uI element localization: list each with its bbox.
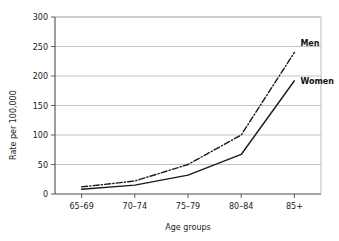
svg-text:100: 100 [33, 131, 48, 140]
series-label-women: Women [300, 77, 334, 86]
series-labels: MenWomen [300, 39, 334, 85]
grid-lines [55, 17, 321, 165]
x-axis-ticks [82, 194, 295, 198]
line-chart: 050100150200250300 65–6970–7475–7980–848… [0, 0, 339, 241]
svg-text:250: 250 [33, 43, 48, 52]
svg-text:150: 150 [33, 102, 48, 111]
svg-text:50: 50 [38, 161, 48, 170]
svg-text:85+: 85+ [286, 202, 303, 211]
data-series [82, 52, 295, 189]
svg-text:300: 300 [33, 13, 48, 22]
series-label-men: Men [300, 39, 319, 48]
series-line-men [82, 52, 295, 187]
y-axis-tick-labels: 050100150200250300 [33, 13, 48, 199]
x-axis-title: Age groups [165, 223, 210, 232]
svg-text:200: 200 [33, 72, 48, 81]
svg-text:0: 0 [43, 190, 48, 199]
svg-text:65–69: 65–69 [69, 202, 93, 211]
y-axis-ticks [51, 17, 55, 194]
y-axis-title: Rate per 100,000 [9, 90, 18, 160]
svg-text:75–79: 75–79 [176, 202, 200, 211]
x-axis-tick-labels: 65–6970–7475–7980–8485+ [69, 202, 302, 211]
svg-text:80–84: 80–84 [229, 202, 253, 211]
svg-text:70–74: 70–74 [123, 202, 147, 211]
chart-container: 050100150200250300 65–6970–7475–7980–848… [0, 0, 339, 241]
